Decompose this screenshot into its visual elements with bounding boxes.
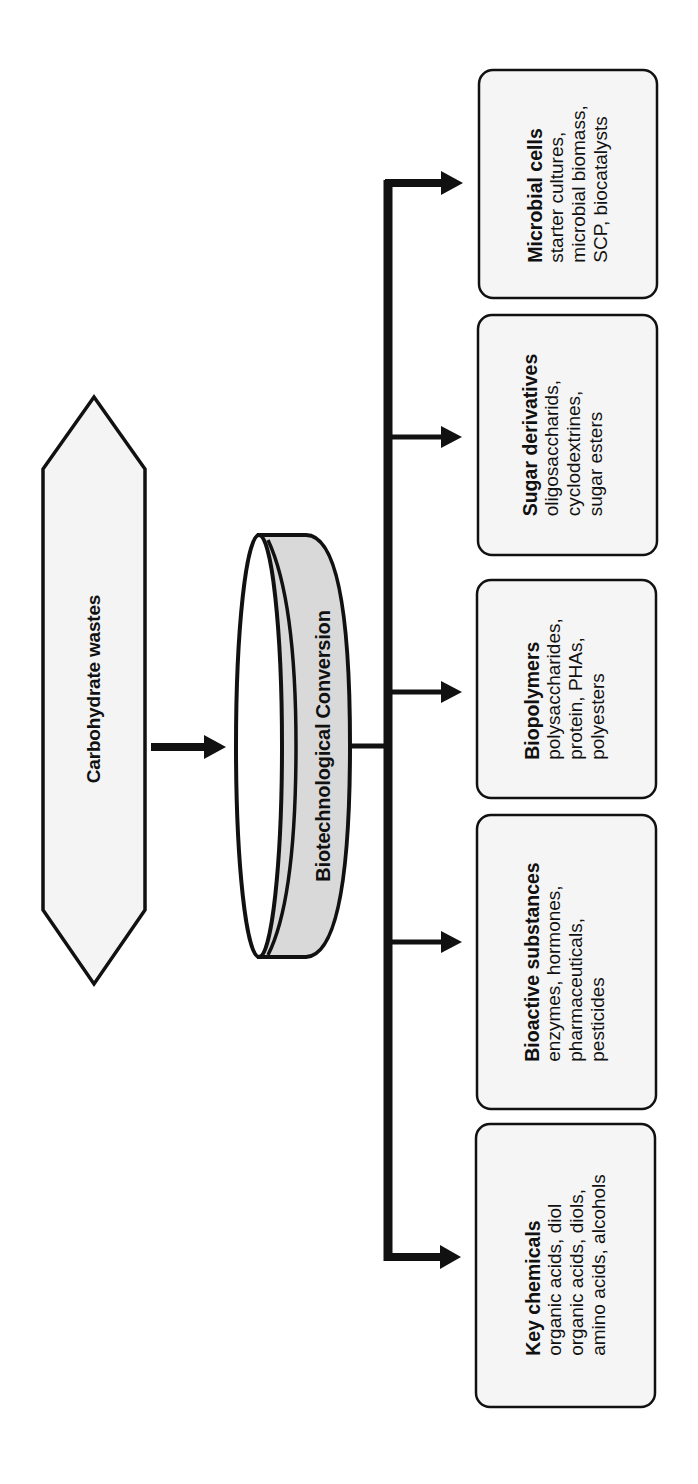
product-title: Key chemicals (522, 1174, 544, 1356)
branch-arrow-microbial-cells-icon (385, 171, 463, 195)
product-detail-line: starter cultures, (546, 105, 568, 262)
branch-arrow-key-chemicals-icon (385, 1245, 461, 1269)
product-detail-line: cyclodextrines, (563, 354, 585, 517)
product-detail-line: pesticides (587, 862, 609, 1061)
product-detail-line: microbial biomass, (568, 105, 590, 262)
product-sugar-derivatives: Sugar derivatives oligosaccharids, cyclo… (519, 354, 607, 517)
product-detail-line: polyesters (587, 618, 609, 760)
product-detail-line: amino acids, alcohols (588, 1174, 610, 1356)
product-title: Sugar derivatives (519, 354, 541, 517)
product-bioactive-substances: Bioactive substances enzymes, hormones, … (521, 862, 609, 1061)
product-detail-line: enzymes, hormones, (543, 862, 565, 1061)
product-biopolymers: Biopolymers polysaccharides, protein, PH… (521, 618, 609, 760)
product-detail-line: oligosaccharids, (541, 354, 563, 517)
process-node-label: Biotechnological Conversion (312, 610, 335, 881)
product-detail-line: protein, PHAs, (565, 618, 587, 760)
branch-arrow-biopolymers-icon (390, 681, 462, 703)
source-node-label: Carbohydrate wastes (83, 595, 105, 783)
branch-arrow-sugar-derivatives-icon (390, 426, 462, 448)
product-detail-line: organic acids, diol (544, 1174, 566, 1356)
product-detail-line: sugar esters (585, 354, 607, 517)
product-detail-line: SCP, biocatalysts (590, 105, 612, 262)
product-detail-line: pharmaceuticals, (565, 862, 587, 1061)
branch-arrow-bioactive-substances-icon (390, 931, 462, 953)
flow-diagram: Carbohydrate wastes Biotechnological Con… (0, 0, 698, 1484)
arrow-to-process-icon (151, 735, 226, 759)
product-title: Bioactive substances (521, 862, 543, 1061)
product-title: Microbial cells (524, 105, 546, 262)
product-title: Biopolymers (521, 618, 543, 760)
product-key-chemicals: Key chemicals organic acids, diol organi… (522, 1174, 610, 1356)
product-detail-line: polysaccharides, (543, 618, 565, 760)
product-microbial-cells: Microbial cells starter cultures, microb… (524, 105, 612, 262)
product-detail-line: organic acids, diols, (566, 1174, 588, 1356)
